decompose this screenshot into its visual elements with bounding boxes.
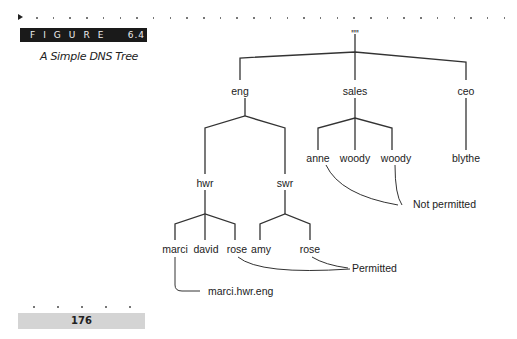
node-amy: amy	[251, 243, 272, 255]
page-number: 176	[18, 313, 145, 329]
node-rose-hwr: rose	[227, 243, 248, 255]
node-eng: eng	[231, 85, 249, 97]
node-hwr: hwr	[197, 177, 214, 189]
dns-tree-diagram: "" eng sales ceo hwr swr anne woody wood…	[0, 0, 517, 339]
node-rose-swr: rose	[300, 243, 321, 255]
node-marci: marci	[162, 243, 188, 255]
node-anne: anne	[306, 152, 330, 164]
node-blythe: blythe	[452, 152, 480, 164]
node-ceo: ceo	[458, 85, 475, 97]
page-dot-rule	[33, 305, 133, 308]
node-woody-2: woody	[380, 152, 412, 164]
node-swr: swr	[277, 177, 294, 189]
annotation-permitted: Permitted	[352, 262, 397, 274]
annotation-fqdn: marci.hwr.eng	[208, 285, 274, 297]
node-david: david	[193, 243, 218, 255]
annotation-not-permitted: Not permitted	[413, 198, 476, 210]
node-woody-1: woody	[339, 152, 371, 164]
node-root: ""	[351, 28, 359, 40]
node-sales: sales	[343, 85, 368, 97]
